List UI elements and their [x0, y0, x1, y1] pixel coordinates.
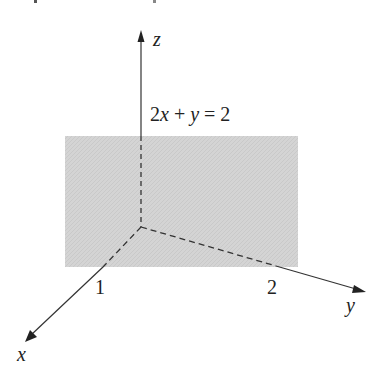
- x-axis-label: x: [16, 343, 26, 365]
- x-intercept-label: 1: [95, 276, 105, 298]
- plane-region: [65, 136, 298, 267]
- equation-plus: +: [169, 103, 190, 125]
- y-axis-label: y: [344, 294, 355, 317]
- y-intercept-label: 2: [267, 276, 277, 298]
- equation-rhs: 2: [220, 103, 230, 125]
- x-axis-solid: [31, 267, 103, 335]
- cropped-text-fragment: [34, 0, 156, 3]
- y-axis-solid: [276, 266, 356, 289]
- z-axis-arrowhead-icon: [138, 30, 145, 42]
- coordinate-diagram: z x y 1 2 2x + y = 2: [0, 0, 392, 389]
- z-axis-label: z: [152, 28, 161, 50]
- y-axis-arrowhead-icon: [352, 285, 366, 293]
- equation-coef: 2: [150, 103, 160, 125]
- equation-var-x: x: [159, 103, 169, 125]
- plane-equation-label: 2x + y = 2: [150, 103, 230, 126]
- equation-equals: =: [199, 103, 220, 125]
- equation-var-y: y: [188, 103, 199, 126]
